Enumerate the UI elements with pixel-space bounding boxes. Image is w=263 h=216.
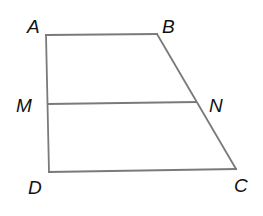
trapezoid-diagram: A B C D M N: [0, 0, 263, 216]
label-b: B: [162, 16, 175, 37]
label-c: C: [234, 175, 248, 196]
label-n: N: [209, 95, 223, 116]
segments: [46, 34, 236, 172]
segment-mn: [48, 102, 196, 104]
label-a: A: [26, 16, 40, 37]
label-m: M: [16, 95, 32, 116]
segment-ab: [46, 34, 157, 35]
segment-cd: [49, 169, 236, 172]
label-d: D: [28, 177, 42, 198]
